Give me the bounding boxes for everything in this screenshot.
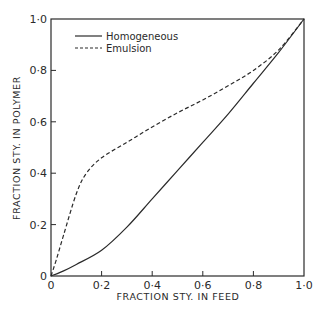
x-tick-label: 0 [48, 279, 55, 292]
x-tick-label: 1·0 [295, 279, 313, 292]
y-tick-label: 0·2 [30, 219, 48, 232]
y-tick-label: 0 [40, 270, 47, 283]
legend-label-emulsion: Emulsion [106, 43, 152, 54]
y-tick-label: 0·8 [30, 64, 48, 77]
y-axis-ticks: 00·20·40·60·81·0 [30, 13, 57, 283]
emulsion-line [51, 19, 304, 276]
plot-frame [51, 19, 304, 276]
y-axis-label: FRACTION STY. IN POLYMER [11, 76, 22, 220]
legend-label-homogeneous: Homogeneous [106, 31, 178, 42]
chart: 00·20·40·60·81·0 00·20·40·60·81·0 FRACTI… [0, 0, 327, 315]
y-tick-label: 0·6 [30, 116, 48, 129]
y-tick-label: 0·4 [30, 167, 48, 180]
y-tick-label: 1·0 [30, 13, 48, 26]
x-tick-label: 0·2 [93, 279, 111, 292]
legend: Homogeneous Emulsion [75, 31, 178, 54]
x-axis-ticks: 00·20·40·60·81·0 [48, 271, 313, 292]
x-tick-label: 0·8 [245, 279, 263, 292]
x-axis-label: FRACTION STY. IN FEED [117, 291, 240, 302]
homogeneous-line [51, 19, 304, 276]
